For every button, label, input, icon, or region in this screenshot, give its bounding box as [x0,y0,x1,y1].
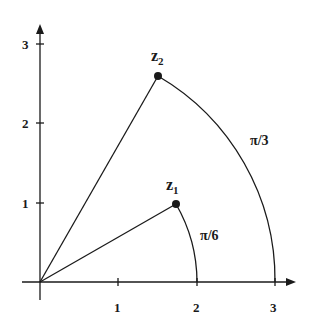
y-tick-label-3: 3 [22,37,29,52]
x-tick-label-2: 2 [193,300,200,315]
label-z1: z1 [166,176,179,196]
arc-pi-over-6 [176,204,197,282]
y-tick-label-1: 1 [22,196,29,211]
ray-z1 [40,204,176,282]
angle-label-pi-over-6: π/6 [200,228,219,243]
point-z2 [154,72,162,80]
complex-plane-diagram: 1 2 3 1 2 3 z2 z1 π/3 π/6 [0,0,314,328]
angle-label-pi-over-3: π/3 [250,133,269,148]
x-tick-label-3: 3 [270,300,277,315]
y-tick-label-2: 2 [22,116,29,131]
x-tick-label-1: 1 [114,300,121,315]
y-axis-arrow-icon [36,24,44,34]
x-axis-arrow-icon [286,278,296,286]
ray-z2 [40,76,158,282]
label-z2: z2 [151,47,164,67]
arc-pi-over-3 [158,76,275,282]
point-z1 [172,200,180,208]
